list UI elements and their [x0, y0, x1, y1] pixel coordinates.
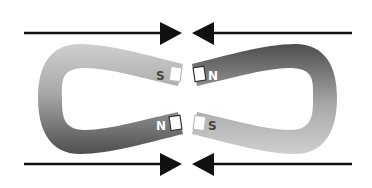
left-bottom-pole-tip: [169, 115, 182, 130]
magnets-diagram: S N N S: [0, 0, 372, 188]
left-magnet: S N: [38, 44, 183, 154]
arrow-bottom-left: [24, 153, 182, 176]
left-bottom-pole-label: N: [156, 119, 166, 133]
right-top-pole-tip: [193, 66, 206, 81]
left-top-pole-label: S: [156, 69, 165, 83]
arrow-bottom-right: [192, 153, 352, 176]
right-bottom-pole-tip: [193, 115, 206, 130]
right-bottom-pole-label: S: [208, 119, 217, 133]
arrow-top-right: [192, 22, 352, 45]
left-top-pole-tip: [169, 66, 182, 81]
right-magnet: N S: [192, 44, 337, 154]
arrow-top-left: [24, 22, 182, 45]
right-top-pole-label: N: [208, 69, 218, 83]
